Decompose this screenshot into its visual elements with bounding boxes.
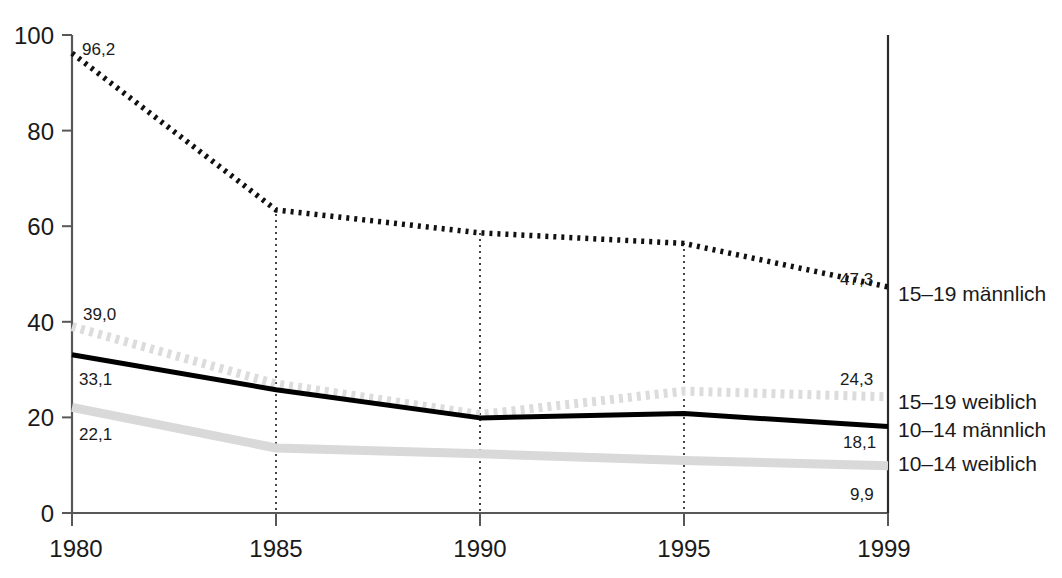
y-tick-marks	[62, 35, 72, 513]
series-group	[72, 53, 888, 466]
y-tick-label-60: 60	[27, 213, 54, 240]
data-label-9-9: 9,9	[850, 485, 874, 504]
vertical-gridlines	[276, 208, 684, 513]
x-tick-label-1980: 1980	[49, 535, 102, 562]
x-tick-labels: 1980 1985 1990 1995 1999	[49, 535, 910, 562]
y-tick-label-80: 80	[27, 118, 54, 145]
chart-container: 100 80 60 40 20 0 1980 1985 1990 1995 19…	[0, 0, 1062, 578]
y-tick-labels: 100 80 60 40 20 0	[14, 22, 54, 527]
legend-item-10-14-maennlich: 10–14 männlich	[898, 418, 1046, 441]
y-tick-label-20: 20	[27, 404, 54, 431]
data-label-39-0: 39,0	[83, 305, 116, 324]
data-label-18-1: 18,1	[843, 433, 876, 452]
legend: 15–19 männlich 15–19 weiblich 10–14 männ…	[898, 282, 1046, 475]
x-tick-label-1990: 1990	[453, 535, 506, 562]
data-label-24-3: 24,3	[840, 370, 873, 389]
x-tick-label-1995: 1995	[657, 535, 710, 562]
data-label-96-2: 96,2	[82, 40, 115, 59]
legend-item-10-14-weiblich: 10–14 weiblich	[898, 452, 1037, 475]
data-label-47-3: 47,3	[840, 270, 873, 289]
line-chart-plot: 100 80 60 40 20 0 1980 1985 1990 1995 19…	[0, 0, 1062, 578]
legend-item-15-19-weiblich: 15–19 weiblich	[898, 390, 1037, 413]
data-label-22-1: 22,1	[79, 425, 112, 444]
data-label-33-1: 33,1	[79, 370, 112, 389]
x-tick-label-1985: 1985	[249, 535, 302, 562]
x-tick-label-1999: 1999	[857, 535, 910, 562]
y-tick-label-0: 0	[41, 500, 54, 527]
y-tick-label-100: 100	[14, 22, 54, 49]
axis-group	[72, 35, 888, 513]
x-tick-marks	[72, 513, 888, 526]
y-tick-label-40: 40	[27, 309, 54, 336]
legend-item-15-19-maennlich: 15–19 männlich	[898, 282, 1046, 305]
